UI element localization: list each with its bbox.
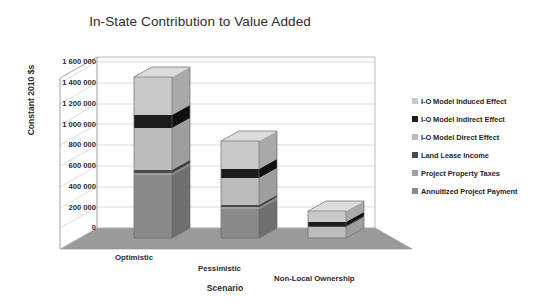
legend-label: I-O Model Indirect Effect: [421, 115, 505, 124]
chart-legend: I-O Model Induced Effect I-O Model Indir…: [412, 92, 551, 200]
legend-item-project-property-taxes[interactable]: Project Property Taxes: [412, 164, 551, 182]
legend-label: Land Lease Income: [421, 151, 489, 160]
x-tick-pessimistic: Pessimistic: [198, 264, 241, 273]
legend-item-io-model-induced-effect[interactable]: I-O Model Induced Effect: [412, 92, 551, 110]
chart-container: In-State Contribution to Value Added Con…: [0, 0, 551, 306]
bar-non-local-ownership[interactable]: [308, 201, 364, 238]
legend-label: Project Property Taxes: [421, 169, 500, 178]
legend-item-annuitized-project-payment[interactable]: Annuitized Project Payment: [412, 182, 551, 200]
y-tick-600000: 600 000: [69, 162, 96, 170]
legend-item-land-lease-income[interactable]: Land Lease Income: [412, 146, 551, 164]
legend-item-io-model-indirect-effect[interactable]: I-O Model Indirect Effect: [412, 110, 551, 128]
y-tick-1200000: 1 200 000: [62, 100, 96, 108]
bar-optimistic[interactable]: [134, 67, 190, 238]
y-tick-1600000: 1 600 000: [62, 58, 96, 66]
y-tick-1400000: 1 400 000: [62, 79, 96, 87]
y-tick-1000000: 1 000 000: [62, 121, 96, 129]
legend-item-io-model-direct-effect[interactable]: I-O Model Direct Effect: [412, 128, 551, 146]
legend-swatch-icon: [412, 98, 418, 104]
legend-label: I-O Model Direct Effect: [421, 133, 499, 142]
legend-swatch-icon: [412, 116, 418, 122]
y-tick-400000: 400 000: [69, 183, 96, 191]
y-axis-tick-labels: 1 600 000 1 400 000 1 200 000 1 000 000 …: [34, 0, 96, 306]
y-tick-200000: 200 000: [69, 204, 96, 212]
bar-pessimistic[interactable]: [221, 131, 277, 238]
x-tick-optimistic: Optimistic: [115, 253, 153, 262]
x-tick-non-local-ownership: Non-Local Ownership: [274, 274, 355, 283]
legend-label: I-O Model Induced Effect: [421, 97, 506, 106]
legend-swatch-icon: [412, 134, 418, 140]
y-tick-0: 0: [92, 224, 96, 232]
legend-swatch-icon: [412, 152, 418, 158]
y-tick-800000: 800 000: [69, 141, 96, 149]
legend-label: Annuitized Project Payment: [421, 187, 517, 196]
legend-swatch-icon: [412, 188, 418, 194]
legend-swatch-icon: [412, 170, 418, 176]
